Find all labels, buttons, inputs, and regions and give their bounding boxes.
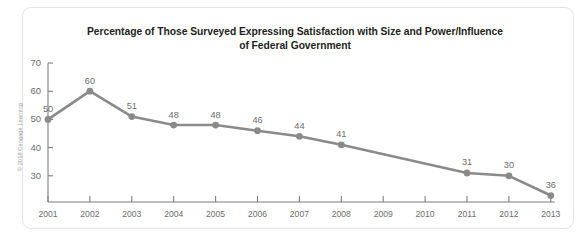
data-point-marker xyxy=(506,172,513,179)
data-point-label: 51 xyxy=(127,101,137,111)
x-axis-tick-label: 2010 xyxy=(416,209,435,219)
y-axis: 7060504030 xyxy=(30,57,53,202)
data-point-label: 44 xyxy=(294,121,304,131)
x-axis-tick-label: 2011 xyxy=(458,209,477,219)
data-point-label: 48 xyxy=(169,110,179,120)
data-point-marker xyxy=(547,192,554,199)
data-point-marker xyxy=(212,122,219,129)
x-axis-tick-label: 2008 xyxy=(332,209,351,219)
x-axis-tick-label: 2009 xyxy=(374,209,393,219)
series-line xyxy=(48,91,551,195)
x-axis-tick-label: 2005 xyxy=(206,209,225,219)
data-series xyxy=(45,88,555,199)
data-point-marker xyxy=(128,113,135,120)
data-point-marker xyxy=(464,170,471,177)
y-axis-tick-label: 50 xyxy=(30,113,41,124)
data-point-label: 36 xyxy=(546,180,556,190)
x-axis-tick-label: 2006 xyxy=(248,209,267,219)
x-axis-tick-label: 2007 xyxy=(290,209,309,219)
data-point-label: 41 xyxy=(336,129,346,139)
x-axis-tick-label: 2001 xyxy=(38,209,57,219)
x-axis-tick-label: 2012 xyxy=(499,209,518,219)
data-point-marker xyxy=(45,116,52,123)
x-axis-tick-label: 2013 xyxy=(541,209,560,219)
data-point-label: 50 xyxy=(43,104,53,114)
x-axis-tick-label: 2003 xyxy=(122,209,141,219)
data-point-marker xyxy=(296,133,303,140)
data-point-marker xyxy=(338,141,345,148)
x-axis: 2001200220032004200520062007200820092010… xyxy=(38,196,560,219)
page-background: Percentage of Those Surveyed Expressing … xyxy=(0,0,588,244)
y-axis-tick-label: 60 xyxy=(30,85,41,96)
line-chart-plot: 7060504030 20012002200320042005200620072… xyxy=(0,0,588,244)
data-point-label: 60 xyxy=(85,76,95,86)
data-point-label: 30 xyxy=(504,160,514,170)
data-point-label: 31 xyxy=(462,157,472,167)
y-axis-tick-label: 40 xyxy=(30,142,41,153)
data-point-marker xyxy=(87,88,94,95)
y-axis-tick-label: 70 xyxy=(30,57,41,68)
data-point-marker xyxy=(170,122,177,129)
x-axis-tick-label: 2004 xyxy=(164,209,183,219)
y-axis-tick-label: 30 xyxy=(30,170,41,181)
x-axis-tick-label: 2002 xyxy=(80,209,99,219)
data-point-label: 46 xyxy=(252,115,262,125)
data-point-label: 48 xyxy=(210,110,220,120)
data-point-marker xyxy=(254,127,261,134)
